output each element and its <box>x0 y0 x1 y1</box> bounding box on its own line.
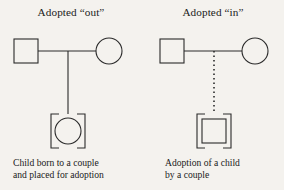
caption-adopted-out: Child born to a couple and placed for ad… <box>13 157 141 180</box>
pedigree-adoption-figure: Adopted “out” Child born to a couple a <box>0 0 284 190</box>
child-circle-symbol <box>55 118 81 144</box>
father-square-symbol <box>160 39 184 63</box>
mother-circle-symbol <box>96 38 122 64</box>
panel-adopted-in: Adopted “in” Adoption of a child by a <box>142 0 284 190</box>
panel-adopted-out: Adopted “out” Child born to a couple a <box>0 0 142 190</box>
caption-adopted-in: Adoption of a child by a couple <box>165 157 284 180</box>
father-square-symbol <box>14 39 38 63</box>
mother-circle-symbol <box>242 38 268 64</box>
child-square-symbol <box>202 119 226 143</box>
